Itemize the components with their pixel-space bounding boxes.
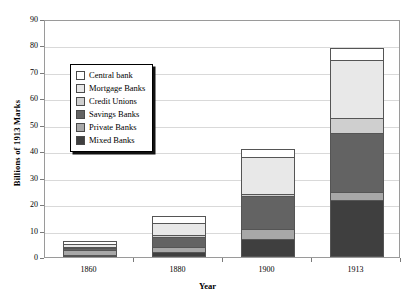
y-tick-label: 50: [8, 122, 38, 130]
bar-segment-mixed-banks[interactable]: [152, 252, 206, 257]
bar-1913[interactable]: [330, 48, 384, 257]
x-tick-mark: [222, 258, 223, 262]
bar-segment-private-banks[interactable]: [330, 192, 384, 200]
bar-segment-savings-banks[interactable]: [330, 133, 384, 193]
legend-label: Credit Unions: [89, 97, 137, 106]
bar-segment-mixed-banks[interactable]: [241, 239, 295, 258]
x-tick-label-1860: 1860: [54, 265, 124, 274]
bar-segment-central-bank[interactable]: [152, 216, 206, 223]
bar-segment-savings-banks[interactable]: [152, 237, 206, 248]
y-tick-label: 60: [8, 95, 38, 103]
legend-swatch-icon: [76, 110, 85, 119]
bar-1860[interactable]: [63, 241, 117, 257]
y-tick-label: 10: [8, 228, 38, 236]
legend-label: Central bank: [89, 71, 133, 80]
x-tick-label-1913: 1913: [321, 265, 391, 274]
x-tick-label-1880: 1880: [143, 265, 213, 274]
x-tick-label-1900: 1900: [232, 265, 302, 274]
y-tick-label: 30: [8, 175, 38, 183]
legend-item-mixed-banks[interactable]: Mixed Banks: [76, 134, 145, 147]
bar-segment-mortgage-banks[interactable]: [152, 223, 206, 235]
legend-item-private-banks[interactable]: Private Banks: [76, 121, 145, 134]
legend-swatch-icon: [76, 84, 85, 93]
bar-segment-mortgage-banks[interactable]: [241, 157, 295, 194]
bar-segment-private-banks[interactable]: [241, 229, 295, 238]
x-axis-title: Year: [0, 281, 415, 291]
bar-segment-mixed-banks[interactable]: [63, 255, 117, 257]
bar-1880[interactable]: [152, 216, 206, 257]
bar-1900[interactable]: [241, 149, 295, 257]
chart-legend: Central bankMortgage BanksCredit UnionsS…: [70, 64, 153, 152]
x-tick-mark: [133, 258, 134, 262]
legend-item-central-bank[interactable]: Central bank: [76, 69, 145, 82]
bar-segment-mixed-banks[interactable]: [330, 200, 384, 257]
legend-label: Savings Banks: [89, 110, 139, 119]
legend-item-savings-banks[interactable]: Savings Banks: [76, 108, 145, 121]
y-tick-label: 80: [8, 42, 38, 50]
y-tick-label: 70: [8, 69, 38, 77]
legend-label: Private Banks: [89, 123, 136, 132]
bar-segment-credit-unions[interactable]: [330, 118, 384, 133]
y-axis-title: Billions of 1913 Marks: [12, 68, 22, 218]
bar-segment-mortgage-banks[interactable]: [330, 60, 384, 118]
y-tick-label: 20: [8, 201, 38, 209]
legend-swatch-icon: [76, 136, 85, 145]
x-tick-mark: [311, 258, 312, 262]
legend-swatch-icon: [76, 123, 85, 132]
y-tick-label: 90: [8, 16, 38, 24]
legend-item-mortgage-banks[interactable]: Mortgage Banks: [76, 82, 145, 95]
legend-item-credit-unions[interactable]: Credit Unions: [76, 95, 145, 108]
y-tick-label: 0: [8, 254, 38, 262]
legend-label: Mixed Banks: [89, 136, 135, 145]
y-tick-label: 40: [8, 148, 38, 156]
x-tick-mark: [400, 258, 401, 262]
chart-figure: Billions of 1913 Marks 01020304050607080…: [0, 0, 415, 297]
bar-segment-central-bank[interactable]: [330, 48, 384, 60]
bar-segment-central-bank[interactable]: [241, 149, 295, 157]
bar-segment-savings-banks[interactable]: [241, 196, 295, 229]
y-tick-mark: [40, 258, 44, 259]
legend-swatch-icon: [76, 71, 85, 80]
legend-label: Mortgage Banks: [89, 84, 145, 93]
legend-swatch-icon: [76, 97, 85, 106]
